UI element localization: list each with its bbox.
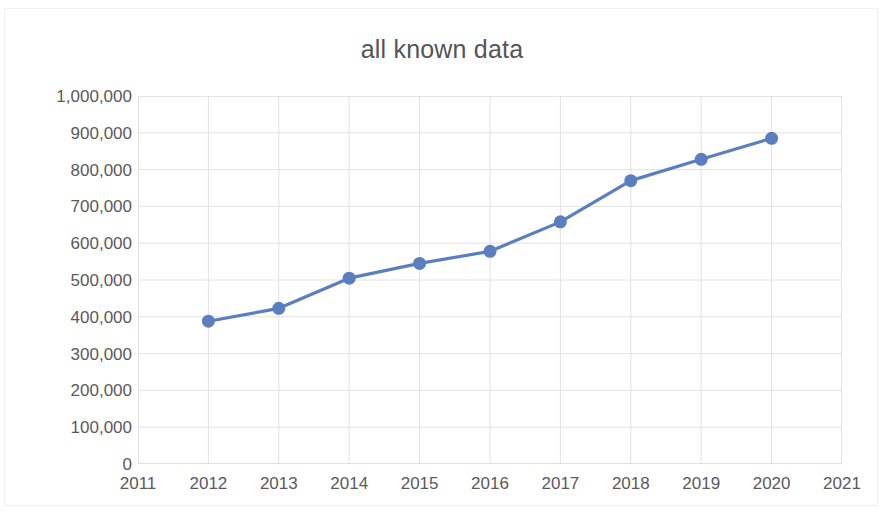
data-point-marker [624, 174, 637, 187]
x-axis-tick-label: 2018 [596, 475, 666, 492]
y-axis-tick-label: 1,000,000 [12, 88, 132, 105]
y-axis-tick-label: 500,000 [12, 272, 132, 289]
y-axis-tick-label: 300,000 [12, 346, 132, 363]
x-axis-tick-labels: 2011201220132014201520162017201820192020… [138, 475, 842, 505]
x-axis-tick-label: 2014 [314, 475, 384, 492]
plot-area [138, 96, 842, 464]
x-axis-tick-label: 2019 [666, 475, 736, 492]
x-axis-tick-label: 2021 [807, 475, 877, 492]
y-axis-tick-label: 900,000 [12, 125, 132, 142]
y-axis-tick-label: 200,000 [12, 382, 132, 399]
data-point-marker [484, 245, 497, 258]
x-axis-tick-label: 2016 [455, 475, 525, 492]
chart-frame: all known data 1,000,000900,000800,00070… [4, 8, 878, 506]
data-point-marker [413, 257, 426, 270]
chart-title: all known data [5, 35, 879, 64]
x-axis-tick-label: 2020 [737, 475, 807, 492]
x-axis-tick-label: 2011 [103, 475, 173, 492]
line-chart-svg [138, 96, 842, 464]
x-axis-tick-label: 2015 [385, 475, 455, 492]
data-point-marker [343, 272, 356, 285]
y-axis-tick-labels: 1,000,000900,000800,000700,000600,000500… [8, 96, 132, 464]
x-axis-tick-label: 2012 [173, 475, 243, 492]
data-point-marker [272, 302, 285, 315]
data-point-marker [202, 315, 215, 328]
data-point-marker [695, 153, 708, 166]
y-axis-tick-label: 100,000 [12, 419, 132, 436]
y-axis-tick-label: 700,000 [12, 198, 132, 215]
x-axis-tick-label: 2017 [525, 475, 595, 492]
y-axis-tick-label: 800,000 [12, 162, 132, 179]
data-point-marker [765, 132, 778, 145]
data-point-marker [554, 215, 567, 228]
x-axis-tick-label: 2013 [244, 475, 314, 492]
y-axis-tick-label: 600,000 [12, 235, 132, 252]
y-axis-tick-label: 0 [12, 456, 132, 473]
y-axis-tick-label: 400,000 [12, 309, 132, 326]
